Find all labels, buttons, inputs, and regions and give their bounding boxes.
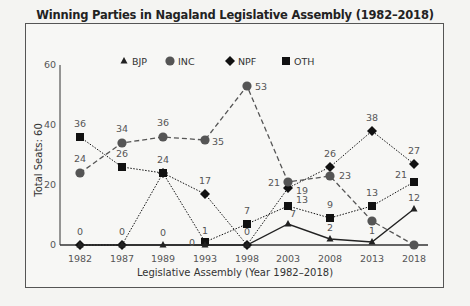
legend-label-inc: INC [178,56,195,67]
data-label-inc: 35 [212,136,224,147]
y-axis-title: Total Seats: 60 [33,123,44,198]
x-tick-label: 1993 [193,253,217,264]
circle-marker [325,171,334,180]
diamond-marker [225,56,235,66]
data-label-npf: 17 [199,175,211,186]
x-tick-label: 1982 [68,253,92,264]
data-label-oth: 36 [74,118,86,129]
legend-label-npf: NPF [238,56,256,67]
square-marker [326,214,334,222]
x-tick-label: 1998 [235,253,259,264]
circle-marker [200,135,209,144]
circle-marker [242,81,251,90]
data-label-bjp: 2 [327,222,333,233]
data-label-inc: 34 [116,123,128,134]
data-label-npf: 0 [77,226,83,237]
legend-label-oth: OTH [294,56,314,67]
data-label-oth: 21 [395,169,407,180]
x-tick-label: 2018 [402,253,426,264]
square-marker [282,57,290,65]
x-tick-label: 1989 [151,253,175,264]
diamond-marker [409,159,419,169]
data-label-bjp: 12 [408,192,420,203]
y-tick-label: 60 [44,59,56,70]
data-label-bjp: 0 [189,237,195,248]
diamond-marker [325,162,335,172]
data-label-npf: 0 [119,226,125,237]
data-label-inc: 21 [268,177,280,188]
diamond-marker [200,189,210,199]
circle-marker [283,177,292,186]
circle-marker [75,168,84,177]
square-marker [368,202,376,210]
square-marker [118,163,126,171]
data-label-oth: 7 [244,205,250,216]
circle-marker [117,138,126,147]
x-tick-label: 2013 [360,253,384,264]
data-label-npf: 26 [324,148,336,159]
data-label-oth: 1 [202,225,208,236]
circle-marker [409,240,418,249]
data-label-bjp: 7 [290,208,296,219]
legend: BJPINCNPFOTH [121,56,315,67]
circle-marker [165,56,174,65]
triangle-marker [411,205,418,212]
data-label-oth: 26 [116,148,128,159]
data-label-bjp: 0 [160,227,166,238]
data-label-oth: 24 [157,154,169,165]
triangle-marker [160,241,167,248]
x-axis-title: Legislative Assembly (Year 1982–2018) [137,267,333,278]
data-label-inc: 36 [157,117,169,128]
series-group [75,81,419,250]
data-label-inc: 53 [255,81,267,92]
line-chart: 0204060198219871989199319982003200820132… [0,0,470,306]
data-label-npf: 27 [408,145,420,156]
square-marker [76,133,84,141]
triangle-marker [285,220,292,227]
x-tick-label: 2003 [276,253,300,264]
data-label-oth: 13 [296,194,308,205]
square-marker [410,178,418,186]
data-label-inc: 23 [339,170,351,181]
legend-label-bjp: BJP [132,56,147,67]
data-label-npf: 0 [244,226,250,237]
triangle-marker [121,57,128,64]
data-label-bjp: 1 [369,225,375,236]
x-tick-label: 1987 [110,253,134,264]
data-label-inc: 24 [74,153,86,164]
circle-marker [158,132,167,141]
x-tick-label: 2008 [318,253,342,264]
y-tick-label: 20 [44,179,56,190]
y-tick-label: 0 [50,239,56,250]
data-label-oth: 13 [366,187,378,198]
y-tick-label: 40 [44,119,56,130]
data-label-oth: 9 [327,199,333,210]
data-label-npf: 38 [366,112,378,123]
